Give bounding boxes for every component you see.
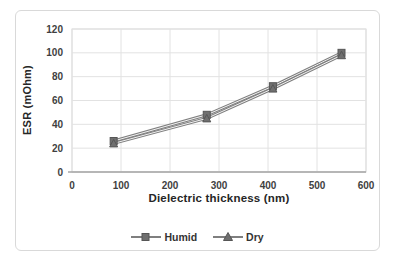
legend-item-dry: Dry (213, 231, 264, 243)
x-tick-label: 0 (69, 180, 75, 191)
x-axis-title: Dielectric thickness (nm) (72, 192, 366, 204)
legend: Humid Dry (15, 228, 380, 246)
y-tick-label: 40 (52, 119, 64, 130)
series-line-core-humid (114, 53, 342, 141)
legend-item-humid: Humid (131, 231, 197, 243)
y-tick-label: 0 (57, 167, 63, 178)
x-tick-label: 500 (309, 180, 326, 191)
y-axis-title: ESR (mOhm) (21, 65, 33, 135)
y-tick-label: 60 (52, 95, 64, 106)
x-tick-label: 200 (162, 180, 179, 191)
x-tick-label: 300 (211, 180, 228, 191)
chart-page: { "chart_data": { "type": "line", "xlabe… (0, 0, 397, 268)
legend-label-humid: Humid (164, 231, 197, 243)
x-tick-label: 400 (260, 180, 277, 191)
legend-label-dry: Dry (246, 231, 264, 243)
y-tick-label: 120 (46, 24, 63, 35)
y-tick-label: 100 (46, 47, 63, 58)
x-tick-label: 600 (358, 180, 375, 191)
y-tick-label: 20 (52, 143, 64, 154)
x-tick-label: 100 (113, 180, 130, 191)
series-line-humid (114, 53, 342, 141)
square-marker-icon (142, 234, 149, 241)
y-tick-label: 80 (52, 71, 64, 82)
humid-legend-marker (131, 232, 161, 242)
dry-legend-marker (213, 232, 243, 242)
